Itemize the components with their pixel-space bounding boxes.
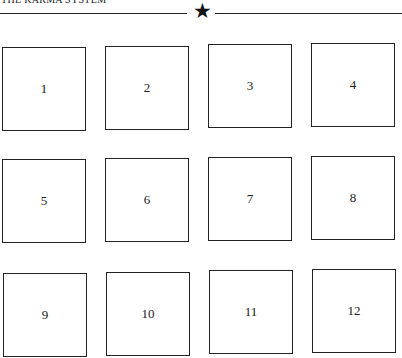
box-5: 5 (2, 159, 86, 243)
box-12: 12 (312, 269, 396, 353)
box-label: 12 (348, 303, 361, 319)
box-label: 10 (142, 306, 155, 322)
box-10: 10 (106, 272, 190, 356)
box-4: 4 (311, 43, 395, 127)
box-label: 2 (144, 80, 151, 96)
box-label: 4 (350, 77, 357, 93)
box-label: 9 (42, 307, 49, 323)
box-label: 11 (245, 304, 258, 320)
box-label: 8 (350, 190, 357, 206)
box-6: 6 (105, 158, 189, 242)
box-2: 2 (105, 46, 189, 130)
box-3: 3 (208, 44, 292, 128)
page-header-title: THE KARMA SYSTEM (1, 0, 106, 5)
divider-rule-left (0, 13, 187, 14)
box-7: 7 (208, 157, 292, 241)
box-label: 1 (41, 81, 48, 97)
box-11: 11 (209, 270, 293, 354)
box-label: 7 (247, 191, 254, 207)
box-label: 5 (41, 193, 48, 209)
box-label: 3 (247, 78, 254, 94)
divider-rule-right (215, 13, 402, 14)
box-8: 8 (311, 156, 395, 240)
box-label: 6 (144, 192, 151, 208)
box-1: 1 (2, 47, 86, 131)
box-9: 9 (3, 273, 87, 357)
star-icon: ★ (193, 1, 212, 22)
